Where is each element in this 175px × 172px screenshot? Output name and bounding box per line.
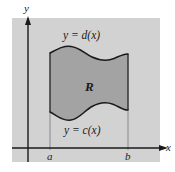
region-label: R xyxy=(85,80,94,93)
y-axis-label: y xyxy=(24,3,29,14)
x-axis-label: x xyxy=(166,142,171,153)
x-tick-label-b: b xyxy=(125,151,131,162)
figure-container: y = d(x) y = c(x) R y x a b xyxy=(0,0,175,172)
upper-curve-label: y = d(x) xyxy=(63,30,100,42)
x-tick-label-a: a xyxy=(47,151,53,162)
lower-curve-label: y = c(x) xyxy=(64,125,100,137)
